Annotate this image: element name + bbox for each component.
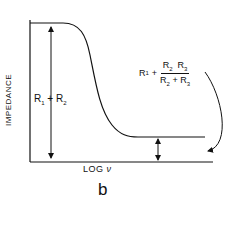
high-frequency-label: R1 + R2 R3 R2 + R3 [139, 60, 190, 87]
fraction-denominator: R2 + R3 [160, 74, 190, 87]
y-axis-label: IMPEDANCE [4, 74, 13, 126]
x-axis-label-symbol: ν [107, 164, 112, 174]
pointer-arrow [205, 72, 222, 151]
panel-label: b [98, 180, 107, 200]
fraction: R2 R3 R2 + R3 [160, 60, 190, 87]
fraction-numerator: R2 R3 [161, 60, 190, 74]
low-frequency-label: R1 + R2 [34, 93, 67, 106]
x-axis-label: LOG ν [83, 164, 112, 174]
x-axis-label-text: LOG [83, 164, 104, 174]
